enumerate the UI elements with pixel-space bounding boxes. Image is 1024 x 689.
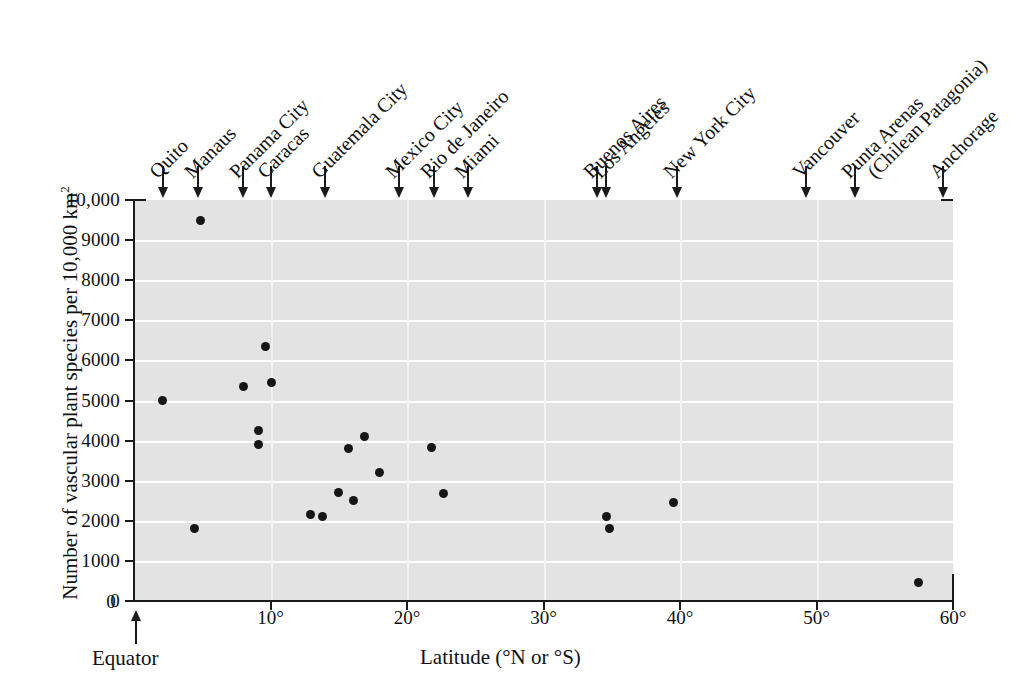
y-axis-tick-label: 2000	[0, 511, 120, 530]
gridline-vertical	[817, 200, 819, 601]
gridline-vertical	[407, 200, 409, 601]
y-axis-tick-label: 5000	[0, 391, 120, 410]
data-point	[261, 342, 270, 351]
gridline-vertical	[271, 200, 273, 601]
plot-right-cap	[952, 574, 954, 602]
data-point	[190, 524, 199, 533]
y-axis-tick	[125, 239, 134, 241]
plot-top-right-cap	[941, 199, 953, 201]
x-axis-tick-label: 10°	[231, 608, 311, 627]
city-marker-label: New York City	[659, 81, 761, 183]
equator-label: Equator	[92, 646, 158, 671]
data-point	[669, 498, 678, 507]
gridline-vertical	[680, 200, 682, 601]
y-axis-tick	[125, 480, 134, 482]
data-point	[605, 524, 614, 533]
x-axis-tick-label: 60°	[913, 608, 993, 627]
data-point	[239, 382, 248, 391]
data-point	[344, 444, 353, 453]
y-axis-tick	[125, 520, 134, 522]
page-caption-cutoff	[120, 676, 910, 689]
y-axis-tick-label: 3000	[0, 471, 120, 490]
data-point	[602, 512, 611, 521]
x-axis-title: Latitude (°N or °S)	[420, 645, 581, 670]
data-point	[254, 440, 263, 449]
y-axis-tick-label: 4000	[0, 431, 120, 450]
gridline-vertical	[544, 200, 546, 601]
y-axis-tick-label: 7000	[0, 310, 120, 329]
y-axis-top-cap	[134, 199, 146, 201]
y-axis-tick-label: 9000	[0, 230, 120, 249]
y-axis-tick-label: 10,000	[0, 190, 120, 209]
scatter-plot-figure: Number of vascular plant species per 10,…	[0, 0, 1024, 689]
data-point	[427, 443, 436, 452]
data-point	[196, 216, 205, 225]
x-axis-tick-label: 50°	[777, 608, 857, 627]
plot-area	[134, 200, 953, 601]
x-axis-tick-label: 0	[71, 592, 151, 611]
y-axis-tick	[125, 279, 134, 281]
y-axis-tick	[125, 400, 134, 402]
equator-arrow-icon	[130, 610, 142, 644]
x-axis-tick-label: 20°	[367, 608, 447, 627]
data-point	[254, 426, 263, 435]
x-axis-tick-label: 30°	[504, 608, 584, 627]
y-axis-tick	[125, 319, 134, 321]
data-point	[306, 510, 315, 519]
y-axis-tick	[125, 440, 134, 442]
y-axis-tick-label: 6000	[0, 350, 120, 369]
y-axis-tick-label: 8000	[0, 270, 120, 289]
y-axis-tick-label: 1000	[0, 551, 120, 570]
x-axis-tick-label: 40°	[640, 608, 720, 627]
y-axis-tick	[125, 199, 134, 201]
y-axis-tick	[125, 560, 134, 562]
y-axis-tick	[125, 359, 134, 361]
